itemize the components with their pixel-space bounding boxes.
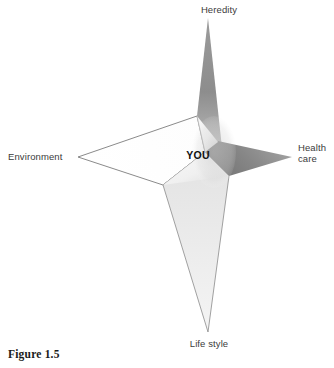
axis-label-health-care: Healthcare bbox=[298, 142, 334, 164]
star-diagram-svg bbox=[0, 0, 334, 368]
center-label-you: YOU bbox=[176, 149, 220, 161]
axis-label-health-care-line2: care bbox=[298, 153, 317, 164]
figure-caption: Figure 1.5 bbox=[8, 348, 60, 360]
axis-label-environment: Environment bbox=[8, 151, 74, 162]
figure-container: Heredity Healthcare Life style Environme… bbox=[0, 0, 334, 368]
axis-label-life-style: Life style bbox=[176, 338, 242, 349]
axis-label-health-care-line1: Health bbox=[298, 142, 326, 153]
axis-label-heredity: Heredity bbox=[186, 4, 252, 15]
